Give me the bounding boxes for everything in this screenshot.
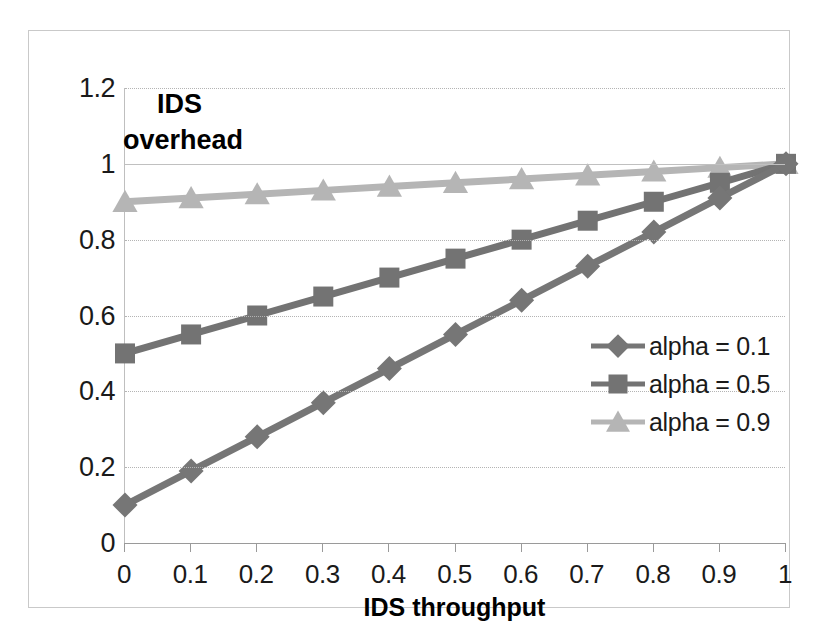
gridline (125, 316, 785, 317)
y-axis-tick-label: 0.2 (55, 452, 115, 483)
y-axis-tick-label: 1 (55, 148, 115, 179)
y-axis-title-line-2: overhead (123, 123, 367, 159)
x-axis-tick-label: 0.8 (623, 559, 683, 590)
triangle-marker-icon (589, 409, 647, 435)
y-axis-tick-label: 0.8 (55, 224, 115, 255)
gridline (125, 240, 785, 241)
x-axis-tick-label: 0.9 (689, 559, 749, 590)
x-axis-tick-mark (719, 543, 720, 552)
x-axis-tick-mark (785, 543, 786, 552)
x-axis-tick-mark (653, 543, 654, 552)
legend-item-label: alpha = 0.5 (649, 370, 770, 399)
gridline (125, 164, 785, 165)
y-axis-tick-label: 0.6 (55, 300, 115, 331)
legend-item-1[interactable]: alpha = 0.1 (589, 327, 804, 365)
x-axis-tick-mark (388, 543, 389, 552)
x-axis-tick-label: 0.6 (491, 559, 551, 590)
x-axis-title: IDS throughput (124, 593, 785, 622)
x-axis-tick-mark (124, 543, 125, 552)
legend-item-3[interactable]: alpha = 0.9 (589, 403, 804, 441)
y-axis-title-line-1: IDS (157, 89, 202, 119)
x-axis-tick-mark (521, 543, 522, 552)
y-axis-tick-labels: 00.20.40.60.811.2 (49, 88, 115, 543)
legend-item-label: alpha = 0.1 (649, 332, 770, 361)
x-axis-tick-mark (322, 543, 323, 552)
x-axis-tick-label: 0.5 (425, 559, 485, 590)
x-axis-tick-label: 0.7 (557, 559, 617, 590)
y-axis-title: IDS overhead (157, 87, 367, 158)
x-axis-tick-label: 0 (94, 559, 154, 590)
x-axis-tick-mark (256, 543, 257, 552)
legend-item-label: alpha = 0.9 (649, 408, 770, 437)
y-axis-tick-label: 0 (55, 528, 115, 559)
square-marker-icon (589, 371, 647, 397)
x-axis-tick-label: 1 (755, 559, 815, 590)
x-axis-tick-label: 0.2 (226, 559, 286, 590)
x-axis-tick-label: 0.3 (292, 559, 352, 590)
diamond-marker-icon (589, 333, 647, 359)
x-axis-tick-mark (190, 543, 191, 552)
gridline (125, 467, 785, 468)
y-axis-tick-label: 1.2 (55, 73, 115, 104)
x-axis-tick-mark (455, 543, 456, 552)
legend: alpha = 0.1alpha = 0.5alpha = 0.9 (589, 327, 804, 441)
x-axis-tick-label: 0.1 (160, 559, 220, 590)
x-axis-tick-mark (587, 543, 588, 552)
legend-item-2[interactable]: alpha = 0.5 (589, 365, 804, 403)
series-triangle (112, 152, 798, 212)
chart-frame: 00.20.40.60.811.2 IDS overhead 00.10.20.… (28, 30, 790, 608)
y-axis-tick-label: 0.4 (55, 376, 115, 407)
x-axis-tick-labels: 00.10.20.30.40.50.60.70.80.91 (124, 543, 785, 595)
x-axis-tick-label: 0.4 (358, 559, 418, 590)
